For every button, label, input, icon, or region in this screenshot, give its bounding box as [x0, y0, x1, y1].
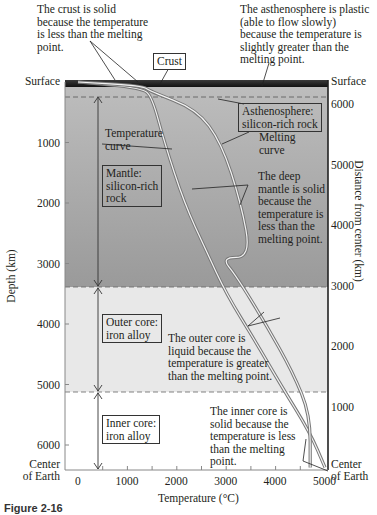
- y-tick-label: Center of Earth: [2, 458, 60, 482]
- x-tick-label: 2000: [165, 475, 188, 487]
- inner-core-label: Inner core: iron alloy: [102, 415, 160, 444]
- y2-axis-title: Distance from center (km): [353, 160, 365, 282]
- x-tick-label: 0: [75, 475, 81, 487]
- x-tick-label: 4000: [264, 475, 287, 487]
- outer-core-label: Outer core: iron alloy: [102, 314, 162, 343]
- y-tick-label: 2000: [2, 197, 60, 209]
- x-tick-label: 5000: [313, 475, 336, 487]
- y-tick-label: Surface: [2, 75, 60, 87]
- crust-label: Crust: [153, 53, 186, 70]
- y2-tick-label: 2000: [331, 340, 354, 352]
- y2-tick-label: 3000: [331, 280, 354, 292]
- temperature-curve-label: Temperature curve: [105, 127, 163, 152]
- figure-caption: Figure 2-16: [4, 502, 63, 514]
- inner-core-note: The inner core is solid because the temp…: [210, 405, 296, 468]
- y-tick-marks: [65, 143, 69, 446]
- inner-core-arrow: [94, 393, 102, 469]
- deep-mantle-note: The deep mantle is solid because the tem…: [258, 170, 325, 245]
- x-axis-title: Temperature (°C): [158, 492, 239, 504]
- x-tick-label: 3000: [214, 475, 237, 487]
- y-tick-label: 1000: [2, 137, 60, 149]
- crust-solid-note: The crust is solid because the temperatu…: [37, 3, 148, 53]
- asthenosphere-label: Asthenosphere: silicon-rich rock: [238, 103, 322, 132]
- outer-core-note: The outer core is liquid because the tem…: [168, 332, 272, 382]
- y-tick-label: 4000: [2, 318, 60, 330]
- y-tick-label: 6000: [2, 439, 60, 451]
- y2-tick-label: Center of Earth: [331, 458, 368, 482]
- y2-tick-label: 6000: [331, 98, 354, 110]
- asthenosphere-plastic-note: The asthenosphere is plastic (able to fl…: [240, 3, 369, 66]
- y-tick-label: 5000: [2, 379, 60, 391]
- outer-core-arrow: [94, 288, 102, 391]
- y2-tick-label: Surface: [331, 75, 366, 87]
- mantle-label: Mantle: silicon-rich rock: [102, 165, 162, 207]
- y-axis-title: Depth (km): [5, 249, 17, 302]
- y2-tick-label: 1000: [331, 401, 354, 413]
- melting-curve-label: Melting curve: [259, 131, 295, 156]
- x-tick-label: 1000: [115, 475, 138, 487]
- y2-tick-label: 5000: [331, 159, 354, 171]
- y2-tick-label: 4000: [331, 219, 354, 231]
- mantle-arrow: [94, 97, 102, 286]
